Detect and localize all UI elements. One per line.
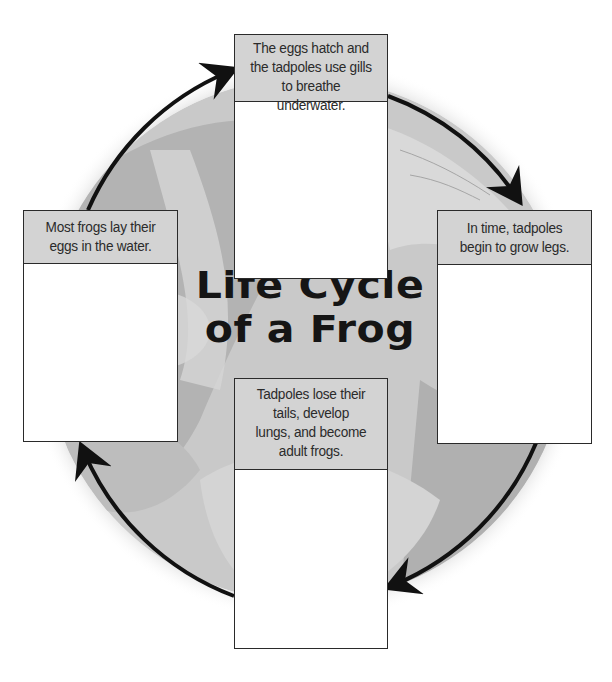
stage-drawing-area-top[interactable] — [235, 102, 387, 278]
stage-caption-bottom: Tadpoles lose their tails, develop lungs… — [235, 379, 387, 470]
title-line-2: of a Frog — [148, 307, 472, 351]
stage-caption-left: Most frogs lay their eggs in the water. — [24, 211, 177, 264]
stage-drawing-area-left[interactable] — [24, 264, 177, 441]
stage-caption-right: In time, tadpoles begin to grow legs. — [438, 211, 591, 265]
stage-caption-top: The eggs hatch and the tadpoles use gill… — [235, 35, 387, 102]
stage-box-bottom: Tadpoles lose their tails, develop lungs… — [234, 378, 388, 649]
stage-drawing-area-right[interactable] — [438, 265, 591, 443]
stage-box-top: The eggs hatch and the tadpoles use gill… — [234, 34, 388, 279]
stage-drawing-area-bottom[interactable] — [235, 470, 387, 648]
stage-box-right: In time, tadpoles begin to grow legs. — [437, 210, 592, 444]
stage-box-left: Most frogs lay their eggs in the water. — [23, 210, 178, 442]
